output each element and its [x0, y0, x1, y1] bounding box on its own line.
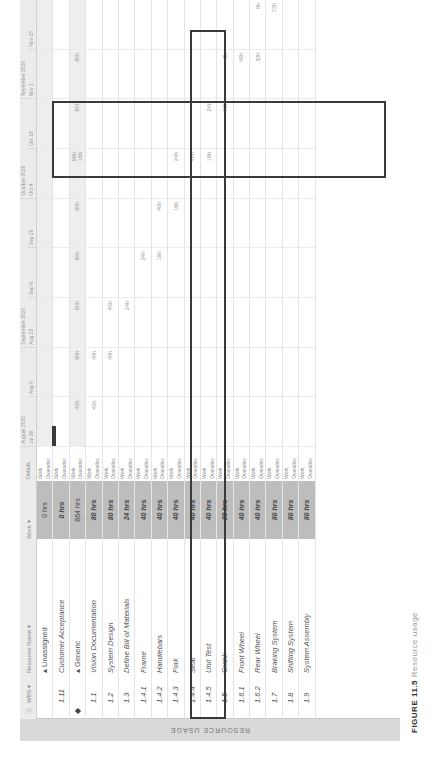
week-header: Nov 1	[28, 50, 36, 100]
highlight-box-oct-overalloc	[52, 426, 56, 446]
week-header: Aug 23	[28, 298, 36, 348]
detail-work-label: Work	[119, 447, 127, 481]
timeline-cell	[250, 348, 265, 398]
indicator-icon: ◆	[73, 703, 82, 719]
header-work[interactable]: Work ▾	[25, 481, 32, 539]
timeline-cell	[152, 50, 167, 100]
table-row[interactable]: 1.7Braking System80 hrs	[266, 481, 282, 719]
resource-name-cell: Frame	[139, 539, 148, 673]
table-row[interactable]: 1.8Shifting System80 hrs	[283, 481, 299, 719]
timeline-cell	[168, 298, 183, 348]
timeline-cell: 40h	[70, 397, 85, 447]
timeline-row: 40h40h	[86, 0, 102, 447]
table-row[interactable]: 1.9System Assembly80 hrs	[299, 481, 315, 719]
resource-name-cell: Vision Documentation	[89, 539, 98, 673]
table-row[interactable]: 1.3Define Bill of Materials24 hrs	[119, 481, 135, 719]
timeline-row: 40h	[234, 0, 250, 447]
table-row[interactable]: 1.1Vision Documentation80 hrs	[86, 481, 102, 719]
timeline-row: 72h	[266, 0, 282, 447]
table-row[interactable]: ▴ Unassigned0 hrs	[37, 481, 53, 719]
header-resource-name[interactable]: Resource Name ▾	[25, 539, 32, 673]
header-wbs[interactable]: WBS ▾	[25, 673, 32, 703]
wbs-cell: 1.9	[302, 673, 311, 703]
resource-name-cell: System Design	[106, 539, 115, 673]
timeline-cell	[266, 248, 281, 298]
timeline-cell	[37, 298, 52, 348]
timeline-cell	[37, 149, 52, 199]
timeline-cell	[119, 199, 134, 249]
timeline-cell	[37, 199, 52, 249]
detail-overalloc-label: Overalloc	[258, 447, 266, 481]
resource-name-cell: Shifting System	[286, 539, 295, 673]
resource-usage-figure: RESOURCE USAGE ⓘ WBS ▾ Resource Name ▾ W…	[0, 0, 432, 763]
timeline-cell: 16h	[152, 248, 167, 298]
table-row[interactable]: ◆▴ Generic864 hrs	[70, 481, 86, 719]
work-value: 40h	[74, 400, 80, 409]
timeline-cell: 40h	[152, 199, 167, 249]
work-value: 80h	[74, 53, 80, 62]
detail-work-label: Work	[234, 447, 242, 481]
timeline-cell	[168, 397, 183, 447]
timeline-cell: 80h	[70, 298, 85, 348]
timeline-cell	[152, 298, 167, 348]
timeline-cell: 40h	[103, 298, 118, 348]
table-row[interactable]: 1.6.1Front Wheel40 hrs	[234, 481, 250, 719]
timeline-cell	[119, 348, 134, 398]
timeline-cell	[86, 0, 101, 50]
week-header: Sep 20	[28, 199, 36, 249]
work-value: 24h	[124, 301, 130, 310]
table-row[interactable]: 1.4.2Handlebars40 hrs	[152, 481, 168, 719]
timeline-cell	[168, 348, 183, 398]
detail-work-label: Work	[70, 447, 78, 481]
timeline-row: 24h	[135, 0, 151, 447]
timeline-cell	[299, 397, 314, 447]
timeline-cell	[53, 199, 68, 249]
timeline-cell: 80h	[70, 50, 85, 100]
timeline-cell: 40h	[103, 348, 118, 398]
timeline-cell: 24h	[135, 248, 150, 298]
details-row: WorkOveralloc	[70, 447, 86, 481]
details-header: Details	[20, 447, 37, 481]
details-row: WorkOveralloc	[53, 447, 69, 481]
resource-name-cell: Customer Acceptance	[57, 539, 66, 673]
table-row[interactable]: 1.6.2Rear Wheel40 hrs	[250, 481, 266, 719]
detail-overalloc-label: Overalloc	[291, 447, 299, 481]
detail-overalloc-label: Overalloc	[241, 447, 249, 481]
timeline-cell	[135, 199, 150, 249]
timeline-row: 24h	[119, 0, 135, 447]
timeline-cell	[135, 348, 150, 398]
table-row[interactable]: 1.2System Design80 hrs	[103, 481, 119, 719]
details-row: WorkOveralloc	[103, 447, 119, 481]
details-row: WorkOveralloc	[86, 447, 102, 481]
work-cell: 40 hrs	[234, 481, 249, 539]
wbs-cell: 1.4.2	[155, 673, 164, 703]
resource-table: ⓘ WBS ▾ Resource Name ▾ Work ▾ ▴ Unassig…	[20, 481, 316, 719]
timeline-cell	[53, 298, 68, 348]
wbs-cell: 1.3	[122, 673, 131, 703]
resource-name-cell: Handlebars	[155, 539, 164, 673]
figure-caption: FIGURE 11.5 Resource usage	[410, 612, 419, 733]
wbs-cell: 1.4.3	[171, 673, 180, 703]
work-value: 32h	[255, 53, 261, 62]
timeline-cell	[299, 298, 314, 348]
work-cell: 40 hrs	[168, 481, 183, 539]
wbs-cell: 1.1	[89, 673, 98, 703]
detail-overalloc-label: Overalloc	[77, 447, 85, 481]
timeline-body: 40h80h80h80h80h96h16h80h80h40h40h40h40h2…	[37, 0, 316, 447]
timeline-cell: 40h	[86, 348, 101, 398]
timeline-cell	[234, 0, 249, 50]
timeline-cell	[53, 0, 68, 50]
wbs-cell: 1.11	[57, 673, 66, 703]
resource-name-cell: Define Bill of Materials	[122, 539, 131, 673]
timeline-cell	[103, 397, 118, 447]
timeline-cell	[168, 50, 183, 100]
month-header: September 2020	[20, 199, 28, 348]
table-row[interactable]: 1.4.1Frame40 hrs	[135, 481, 151, 719]
wbs-cell: 1.8	[286, 673, 295, 703]
table-row[interactable]: 1.4.3Fork40 hrs	[168, 481, 184, 719]
table-row[interactable]: 1.11Customer Acceptance0 hrs	[53, 481, 69, 719]
timeline-cell	[299, 199, 314, 249]
week-header: Nov 15	[28, 0, 36, 50]
resource-name-cell: Rear Wheel	[253, 539, 262, 673]
timeline-cell	[250, 397, 265, 447]
